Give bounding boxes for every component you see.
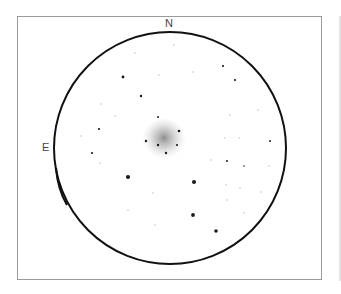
faint-star <box>152 192 153 193</box>
faint-star <box>224 137 225 138</box>
star <box>145 140 147 142</box>
star <box>222 65 224 67</box>
faint-star <box>226 199 227 200</box>
faint-star <box>80 135 81 136</box>
faint-star <box>114 115 115 116</box>
faint-star <box>173 44 174 45</box>
faint-star <box>100 103 101 104</box>
star <box>140 95 142 97</box>
star <box>243 165 245 167</box>
star <box>191 213 195 217</box>
star <box>192 180 196 184</box>
star <box>157 116 159 118</box>
faint-star <box>210 159 211 160</box>
star <box>126 175 130 179</box>
star <box>91 152 93 154</box>
faint-star <box>192 71 193 72</box>
nebula-glow <box>142 119 186 161</box>
faint-star <box>158 74 159 75</box>
star <box>122 76 125 79</box>
star <box>178 130 181 133</box>
star <box>226 160 228 162</box>
faint-star <box>134 52 135 53</box>
faint-star <box>257 109 258 110</box>
eyepiece-field <box>0 0 341 294</box>
star <box>176 144 178 146</box>
star <box>234 79 236 81</box>
north-label: N <box>165 17 173 29</box>
star <box>165 152 167 154</box>
faint-star <box>225 184 226 185</box>
faint-star <box>239 187 240 188</box>
star <box>98 128 100 130</box>
star <box>269 140 271 142</box>
faint-star <box>238 137 239 138</box>
faint-star <box>229 114 230 115</box>
faint-star <box>268 165 269 166</box>
faint-star <box>243 212 244 213</box>
east-label: E <box>42 141 49 153</box>
star <box>157 144 159 146</box>
faint-star <box>127 209 128 210</box>
faint-star <box>260 191 261 192</box>
star <box>214 229 218 233</box>
faint-star <box>99 162 100 163</box>
faint-star <box>154 224 155 225</box>
